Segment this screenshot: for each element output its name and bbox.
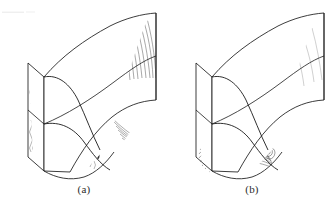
panel-b: (b) [168,0,336,209]
figure-container: (a) [0,0,336,209]
passage-outline [28,13,156,172]
panel-a-geometry [28,13,156,179]
panel-b-geometry [196,13,324,179]
panel-a-caption: (a) [0,183,168,195]
passage-outline [196,13,324,172]
panel-b-caption: (b) [168,183,336,195]
panel-b-plot [168,0,336,185]
panel-a-plot [0,0,168,185]
panel-a: (a) [0,0,168,209]
exit-contours-lower [112,118,148,155]
